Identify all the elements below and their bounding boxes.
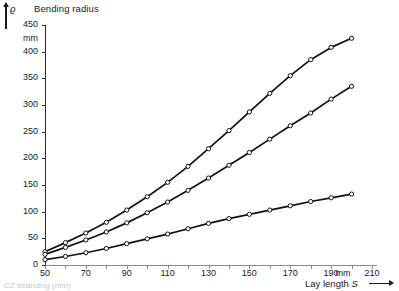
data-point-marker [166, 180, 170, 184]
data-point-marker [329, 196, 333, 200]
data-point-marker [84, 238, 88, 242]
data-point-marker [206, 147, 210, 151]
data-point-marker [247, 212, 251, 216]
data-point-marker [288, 204, 292, 208]
data-point-marker [104, 220, 108, 224]
data-point-marker [309, 199, 313, 203]
data-point-marker [349, 36, 353, 40]
data-point-marker [63, 241, 67, 245]
data-point-marker [63, 245, 67, 249]
data-point-marker [186, 164, 190, 168]
data-point-marker [268, 91, 272, 95]
data-point-marker [166, 232, 170, 236]
data-point-marker [43, 252, 47, 256]
data-point-marker [227, 163, 231, 167]
data-point-marker [43, 258, 47, 262]
data-point-marker [166, 200, 170, 204]
data-point-marker [84, 251, 88, 255]
data-point-marker [104, 230, 108, 234]
data-point-marker [125, 221, 129, 225]
data-point-marker [125, 242, 129, 246]
data-point-marker [145, 211, 149, 215]
data-point-marker [63, 254, 67, 258]
data-line-curve-lower [45, 194, 352, 260]
data-point-marker [288, 124, 292, 128]
data-point-marker [268, 137, 272, 141]
data-point-marker [227, 129, 231, 133]
data-point-marker [247, 150, 251, 154]
data-point-marker [104, 246, 108, 250]
data-point-marker [206, 176, 210, 180]
data-point-marker [309, 111, 313, 115]
plot-area [0, 0, 399, 291]
data-point-marker [84, 231, 88, 235]
data-point-marker [125, 208, 129, 212]
data-point-marker [145, 195, 149, 199]
data-point-marker [349, 84, 353, 88]
data-line-curve-upper [45, 38, 352, 251]
data-point-marker [247, 110, 251, 114]
data-point-marker [186, 227, 190, 231]
data-point-marker [309, 58, 313, 62]
data-point-marker [186, 188, 190, 192]
data-point-marker [268, 208, 272, 212]
data-point-marker [145, 237, 149, 241]
data-point-marker [329, 97, 333, 101]
data-point-marker [329, 45, 333, 49]
figure-caption: CZ stranding (mm) [4, 281, 71, 290]
chart-root: ϱ Bending radius mm 05010015020025030035… [0, 0, 399, 291]
data-point-marker [349, 192, 353, 196]
data-point-marker [206, 221, 210, 225]
data-point-marker [227, 217, 231, 221]
data-point-marker [288, 74, 292, 78]
data-line-curve-middle [45, 86, 352, 254]
